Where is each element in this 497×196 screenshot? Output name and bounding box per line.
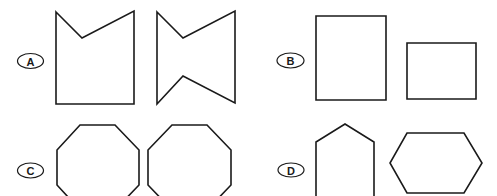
figure-octagon-left xyxy=(57,125,139,196)
option-d: D xyxy=(278,124,482,196)
figure-hexagon xyxy=(390,133,482,193)
option-label: C xyxy=(27,165,35,177)
option-c: C xyxy=(18,125,232,196)
option-b: B xyxy=(277,16,476,100)
option-label: B xyxy=(287,55,295,67)
figure-pentagon-notched-top xyxy=(56,11,134,104)
option-label: A xyxy=(27,56,35,68)
figure-tall-rectangle xyxy=(316,16,386,100)
figure-octagon-right xyxy=(148,125,231,196)
shape-comparison-diagram: A B C D xyxy=(0,0,497,196)
option-label: D xyxy=(287,165,295,177)
figure-pentagon-house xyxy=(316,124,374,196)
option-a: A xyxy=(18,11,236,104)
figure-bowtie-hexagon xyxy=(157,11,235,104)
figure-wide-rectangle xyxy=(407,43,476,99)
